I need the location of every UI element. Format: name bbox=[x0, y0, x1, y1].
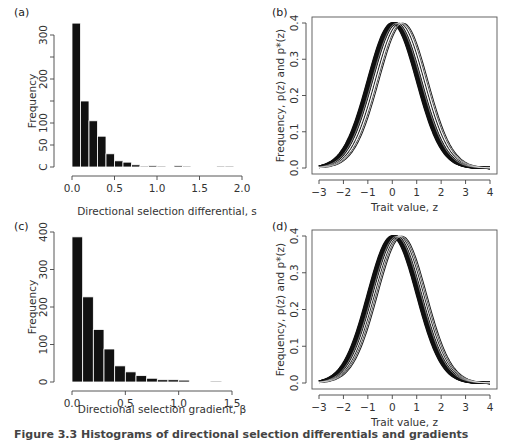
histogram-bar bbox=[115, 161, 124, 167]
histogram-bar bbox=[147, 378, 158, 382]
y-tick-label: 200 bbox=[37, 69, 49, 89]
density-curves bbox=[319, 236, 490, 383]
histogram-bar bbox=[157, 166, 166, 167]
histogram-bar bbox=[81, 101, 90, 167]
histogram-bar bbox=[183, 166, 192, 167]
y-tick-label: 0.0 bbox=[288, 375, 300, 392]
x-tick-label: 3 bbox=[462, 401, 469, 413]
x-axis-title: Trait value, z bbox=[370, 201, 438, 213]
y-tick-label: 50 bbox=[37, 138, 49, 151]
y-tick-label: 0 bbox=[37, 379, 49, 386]
histogram-bar bbox=[217, 166, 226, 167]
histogram-bar bbox=[211, 381, 222, 382]
histogram-bar bbox=[132, 165, 141, 167]
panel-label: (a) bbox=[14, 6, 29, 19]
histogram-bar bbox=[98, 136, 107, 167]
x-tick-label: 0 bbox=[389, 186, 396, 198]
histogram-bar bbox=[157, 380, 168, 382]
x-axis-title: Trait value, z bbox=[370, 416, 438, 428]
x-tick-label: 1 bbox=[413, 401, 420, 413]
bars bbox=[72, 237, 221, 382]
x-tick-label: 1.5 bbox=[191, 182, 208, 194]
y-tick-label: 0.4 bbox=[288, 14, 300, 31]
histogram-bar bbox=[140, 166, 149, 167]
figure-caption: Figure 3.3 Histograms of directional sel… bbox=[14, 428, 468, 441]
x-tick-label: 1 bbox=[413, 186, 420, 198]
y-tick-label: 400 bbox=[37, 222, 49, 242]
histogram-bar bbox=[104, 349, 115, 382]
panel-label: (c) bbox=[14, 220, 29, 233]
bars bbox=[72, 23, 234, 167]
density-curve bbox=[319, 236, 490, 383]
density-curve bbox=[319, 23, 490, 168]
x-tick-label: 0.0 bbox=[64, 182, 81, 194]
histogram-bar bbox=[106, 154, 115, 167]
x-tick-label: 4 bbox=[487, 401, 494, 413]
x-axis-title: Directional selection differential, s bbox=[77, 205, 257, 217]
x-tick-label: 2.0 bbox=[234, 182, 251, 194]
x-tick-label: −2 bbox=[336, 401, 351, 413]
x-tick-label: 3 bbox=[462, 186, 469, 198]
y-tick-label: 0.4 bbox=[288, 227, 300, 244]
panel-b-density-curves: (b)0.00.10.20.30.4−3−2−101234Trait value… bbox=[272, 6, 497, 213]
panel-a-histogram: (a)C501002003000.00.51.01.52.0Directiona… bbox=[14, 6, 257, 217]
y-axis-title: Frequency, p(z) and p*(z) bbox=[274, 29, 286, 162]
x-tick-label: 2 bbox=[438, 401, 445, 413]
x-tick-label: 2 bbox=[438, 186, 445, 198]
y-axis-title: Frequency bbox=[26, 280, 38, 334]
y-tick-label: 0.2 bbox=[288, 87, 300, 104]
histogram-bar bbox=[125, 372, 136, 382]
x-tick-label: 0 bbox=[389, 401, 396, 413]
histogram-bar bbox=[174, 166, 183, 167]
y-tick-label: 0.1 bbox=[288, 123, 300, 140]
histogram-bar bbox=[179, 380, 190, 382]
y-tick-label: 300 bbox=[37, 25, 49, 45]
y-tick-label: 100 bbox=[37, 113, 49, 133]
histogram-bar bbox=[115, 366, 126, 382]
y-tick-label: 0.1 bbox=[288, 338, 300, 355]
histogram-bar bbox=[93, 330, 104, 383]
x-tick-label: 4 bbox=[487, 186, 494, 198]
histogram-bar bbox=[136, 376, 147, 382]
histogram-bar bbox=[72, 237, 83, 382]
histogram-bar bbox=[89, 121, 98, 167]
x-tick-label: −3 bbox=[311, 186, 326, 198]
y-tick-label: C bbox=[37, 163, 49, 170]
x-tick-label: −1 bbox=[360, 186, 375, 198]
x-tick-label: 0.5 bbox=[106, 182, 123, 194]
histogram-bar bbox=[225, 166, 234, 167]
x-axis-title: Directional selection gradient, β bbox=[78, 403, 246, 415]
histogram-bar bbox=[123, 162, 132, 167]
histogram-bar bbox=[83, 297, 94, 382]
y-tick-label: 0.2 bbox=[288, 301, 300, 318]
panel-c-histogram: (c)01002003004000.00.51.01.5Directional … bbox=[14, 220, 246, 415]
density-curves bbox=[319, 23, 490, 168]
y-tick-label: 0.3 bbox=[288, 51, 300, 68]
histogram-bar bbox=[149, 166, 158, 167]
y-tick-label: 300 bbox=[37, 259, 49, 279]
y-axis-title: Frequency bbox=[26, 74, 38, 128]
y-tick-label: 200 bbox=[37, 297, 49, 317]
y-tick-label: 100 bbox=[37, 334, 49, 354]
y-tick-label: 0.3 bbox=[288, 264, 300, 281]
panel-label: (d) bbox=[272, 220, 288, 233]
panel-d-density-curves: (d)0.00.10.20.30.4−3−2−101234Trait value… bbox=[272, 220, 497, 428]
y-tick-label: 0.0 bbox=[288, 160, 300, 177]
x-tick-label: −3 bbox=[311, 401, 326, 413]
x-tick-label: 1.0 bbox=[149, 182, 166, 194]
y-axis-title: Frequency, p(z) and p*(z) bbox=[274, 243, 286, 376]
x-tick-label: −1 bbox=[360, 401, 375, 413]
histogram-bar bbox=[72, 23, 81, 167]
x-tick-label: −2 bbox=[336, 186, 351, 198]
histogram-bar bbox=[168, 380, 179, 382]
panel-label: (b) bbox=[272, 6, 288, 19]
